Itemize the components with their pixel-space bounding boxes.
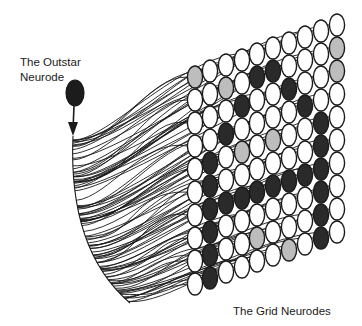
grid-neurode	[187, 204, 202, 226]
grid-neurode	[234, 210, 249, 232]
grid-neurode	[281, 124, 296, 146]
grid-neurode	[297, 164, 312, 186]
grid-neurode	[187, 273, 202, 295]
grid-neurode	[202, 129, 217, 151]
grid-neurode	[218, 261, 233, 283]
grid-neurode	[202, 106, 217, 128]
grid-neurode	[187, 250, 202, 272]
grid-neurode	[265, 198, 280, 220]
grid-neurode	[265, 37, 280, 59]
grid-neurode	[249, 43, 264, 65]
grid-neurode	[218, 238, 233, 260]
grid-neurode	[281, 147, 296, 169]
grid-neurode	[281, 216, 296, 238]
grid-neurode	[329, 37, 344, 59]
connection-line	[97, 214, 187, 263]
grid-neurode	[218, 192, 233, 214]
grid-neurode	[265, 83, 280, 105]
grid-neurode	[313, 112, 328, 134]
grid-neurode	[297, 26, 312, 48]
grid-neurode	[329, 106, 344, 128]
grid-neurode	[218, 123, 233, 145]
grid-neurode	[329, 83, 344, 105]
grid-neurode	[234, 49, 249, 71]
grid-neurode	[281, 170, 296, 192]
grid-neurode	[202, 83, 217, 105]
grid-neurode	[234, 256, 249, 278]
grid-neurode	[234, 72, 249, 94]
grid-neurode	[313, 181, 328, 203]
grid-neurode	[249, 112, 264, 134]
grid-neurode	[187, 227, 202, 249]
grid-neurode	[281, 55, 296, 77]
grid-neurode	[265, 152, 280, 174]
grid-neurode	[313, 66, 328, 88]
grid-neurode	[329, 129, 344, 151]
grid-neurode	[265, 175, 280, 197]
grid-neurode	[281, 32, 296, 54]
grid-neurode	[234, 141, 249, 163]
grid-neurode	[249, 66, 264, 88]
grid-neurode	[313, 204, 328, 226]
grid-neurode	[297, 49, 312, 71]
grid-neurode	[218, 100, 233, 122]
grid-neurode	[234, 233, 249, 255]
grid-neurode	[297, 187, 312, 209]
grid-neurode	[202, 244, 217, 266]
grid-neurode	[313, 135, 328, 157]
grid-neurode	[187, 181, 202, 203]
grid-neurode	[249, 89, 264, 111]
grid-neurode	[202, 267, 217, 289]
diagram-canvas	[0, 0, 362, 326]
grid-neurode	[297, 72, 312, 94]
grid-neurode	[313, 227, 328, 249]
grid-neurode	[265, 60, 280, 82]
outstar-neurode-label: The Outstar Neurode	[20, 55, 81, 85]
grid-neurode	[202, 175, 217, 197]
grid-neurode	[329, 60, 344, 82]
grid-neurode	[313, 43, 328, 65]
grid-neurode	[281, 101, 296, 123]
grid-neurode	[249, 250, 264, 272]
arrow-down-icon	[68, 122, 78, 136]
grid-neurode	[249, 135, 264, 157]
grid-neurode	[202, 221, 217, 243]
grid-neurode	[234, 187, 249, 209]
outstar-diagram: The Outstar Neurode The Grid Neurodes	[0, 0, 362, 326]
grid-neurode	[249, 181, 264, 203]
grid-neurode	[297, 95, 312, 117]
grid-neurode	[187, 135, 202, 157]
grid-neurode	[187, 66, 202, 88]
grid-neurode	[265, 244, 280, 266]
grid-neurode	[265, 129, 280, 151]
grid-neurode	[202, 60, 217, 82]
grid-neurode	[265, 106, 280, 128]
grid-neurode	[313, 20, 328, 42]
grid-neurode	[329, 175, 344, 197]
grid-neurode	[265, 221, 280, 243]
grid-neurode	[313, 89, 328, 111]
grid-neurode	[281, 193, 296, 215]
grid-neurode	[218, 77, 233, 99]
grid-neurode	[329, 14, 344, 36]
grid-neurode	[218, 215, 233, 237]
outstar-neurode	[66, 80, 84, 136]
grid-neurode	[329, 221, 344, 243]
grid-neurodes	[187, 14, 344, 295]
grid-neurodes-label: The Grid Neurodes	[233, 304, 331, 319]
grid-neurode	[313, 158, 328, 180]
grid-neurode	[249, 204, 264, 226]
grid-neurode	[329, 152, 344, 174]
grid-neurode	[218, 146, 233, 168]
grid-neurode	[187, 112, 202, 134]
grid-neurode	[329, 198, 344, 220]
grid-neurode	[281, 78, 296, 100]
grid-neurode	[202, 152, 217, 174]
outstar-label-line2: Neurode	[20, 70, 81, 85]
grid-neurode	[249, 227, 264, 249]
grid-neurode	[218, 54, 233, 76]
grid-neurode	[202, 198, 217, 220]
grid-neurode	[297, 118, 312, 140]
grid-neurode	[281, 239, 296, 261]
grid-neurode	[187, 158, 202, 180]
